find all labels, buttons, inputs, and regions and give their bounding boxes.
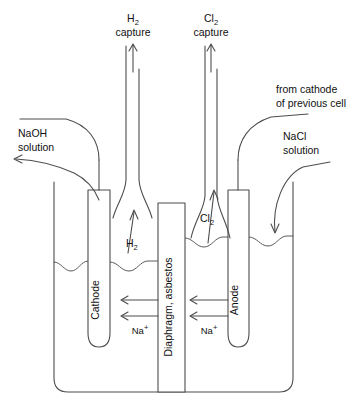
naoh-solution-label-line2: solution bbox=[18, 141, 54, 153]
naoh-outlet-pipe bbox=[20, 119, 99, 160]
naoh-outlet-curve bbox=[16, 159, 99, 200]
nacl-solution-label-line2: solution bbox=[283, 144, 319, 156]
cl2-gas-label: Cl2 bbox=[200, 212, 214, 227]
cl2-capture-label-line1: Cl2 bbox=[204, 12, 218, 27]
anode-electrode bbox=[228, 190, 249, 347]
diaphragm-label: Diaphragm, asbestos bbox=[162, 257, 174, 356]
liquid-level-right-inner bbox=[185, 237, 228, 247]
h2-capture-label-line1: H2 bbox=[127, 12, 139, 27]
cathode-label: Cathode bbox=[89, 280, 101, 320]
from-cathode-label-line1: from cathode bbox=[276, 83, 337, 95]
cathode-electrode bbox=[88, 190, 110, 347]
cl2-capture-label-line2: capture bbox=[193, 26, 228, 38]
liquid-level-right bbox=[249, 236, 293, 246]
liquid-level-left bbox=[54, 261, 88, 271]
anode-label: Anode bbox=[228, 285, 240, 316]
liquid-level-left-inner bbox=[110, 261, 158, 271]
na-ion-label-left: Na+ bbox=[132, 323, 149, 336]
naoh-solution-label-line1: NaOH bbox=[18, 127, 47, 139]
from-cathode-label-line2: of previous cell bbox=[276, 97, 346, 109]
h2-gas-label: H2 bbox=[126, 237, 138, 252]
nacl-inlet-curve bbox=[275, 162, 330, 232]
h2-capture-funnel-left-wall bbox=[113, 46, 126, 218]
na-ion-label-right: Na+ bbox=[201, 323, 218, 336]
diaphragm-cell-diagram: H2 capture Cl2 capture from cathode of p… bbox=[0, 0, 359, 408]
nacl-solution-label-line1: NaCl bbox=[283, 130, 306, 142]
cell-schematic-svg: H2 capture Cl2 capture from cathode of p… bbox=[0, 0, 359, 408]
h2-capture-label-line2: capture bbox=[115, 26, 150, 38]
cl2-capture-funnel-left-wall bbox=[191, 46, 205, 238]
h2-capture-funnel-right-wall bbox=[139, 69, 152, 218]
